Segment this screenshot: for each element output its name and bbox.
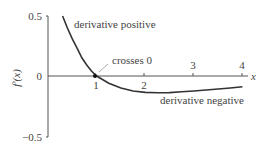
y-tick-label: 0 [37,70,43,82]
y-axis-label: f'(x) [10,69,23,87]
annotation-pointer [99,64,108,72]
x-axis-label: x [250,70,256,82]
annotation-positive: derivative positive [74,18,156,30]
y-tick-label: 0.5 [28,10,42,22]
x-tick-label: 1 [93,79,99,91]
annotation-negative: derivative negative [160,94,244,106]
x-tick-label: 4 [239,59,245,71]
annotation-crosses: crosses 0 [112,54,153,66]
x-tick-label: 2 [141,79,147,91]
y-tick-label: −0.5 [22,131,42,143]
x-tick-label: 3 [190,59,196,71]
zero-crossing-point [93,74,97,78]
chart: 0.5 0 −0.5 1 2 3 4 x f'(x) derivative po… [0,0,265,148]
